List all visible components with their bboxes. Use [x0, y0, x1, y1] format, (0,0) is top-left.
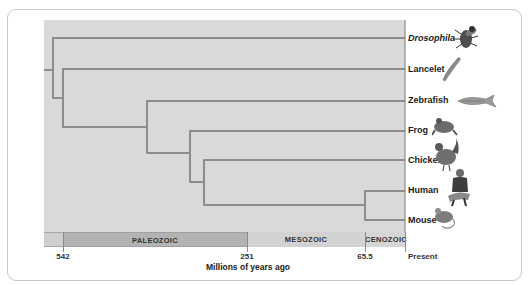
tick-label-65-5: 65.5 — [357, 252, 373, 261]
mouse-icon — [432, 206, 460, 230]
era-cenozoic: CENOZOIC — [365, 232, 405, 247]
taxon-label-drosophila: Drosophila — [408, 33, 455, 43]
taxon-label-human: Human — [408, 185, 439, 195]
tick-mark-542 — [63, 232, 64, 252]
tick-label-251: 251 — [240, 252, 253, 261]
tick-mark-251 — [247, 232, 248, 252]
taxon-label-frog: Frog — [408, 125, 428, 135]
tick-label-542: 542 — [56, 252, 69, 261]
tick-mark-present — [405, 232, 406, 252]
era-paleozoic: PALEOZOIC — [63, 232, 247, 247]
frog-icon — [432, 116, 458, 136]
lancelet-icon — [440, 55, 464, 83]
tick-mark-65-5 — [365, 232, 366, 252]
fish-icon — [456, 94, 500, 108]
era-mesozoic: MESOZOIC — [247, 232, 365, 247]
human-icon — [444, 168, 472, 208]
tick-label-present: Present — [408, 252, 437, 261]
x-axis-label: Millions of years ago — [206, 262, 290, 272]
taxon-label-zebrafish: Zebrafish — [408, 95, 449, 105]
chicken-icon — [432, 138, 462, 172]
fly-icon — [452, 24, 482, 52]
